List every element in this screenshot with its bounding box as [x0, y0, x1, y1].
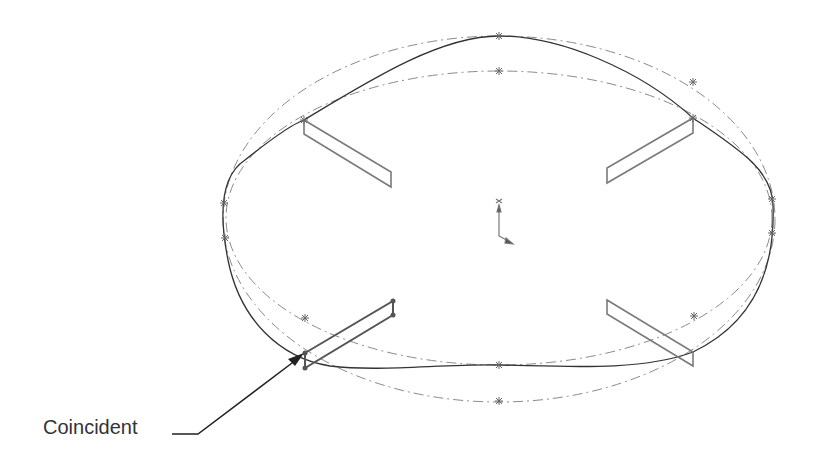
- sketch-canvas[interactable]: Coincident: [0, 0, 822, 462]
- origin-axes-icon: [496, 199, 513, 244]
- slot-top-left[interactable]: [304, 120, 391, 187]
- sketch-drawing[interactable]: [0, 0, 822, 462]
- slot-top-right[interactable]: [607, 118, 693, 183]
- slot-endpoints: [303, 299, 396, 371]
- callout-leader: [172, 360, 296, 434]
- coincident-label: Coincident: [43, 416, 138, 439]
- slot-bottom-left[interactable]: [305, 301, 393, 368]
